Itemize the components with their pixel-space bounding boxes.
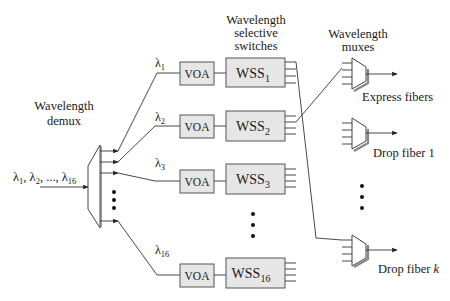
mux-express bbox=[342, 58, 397, 91]
svg-text:demux: demux bbox=[47, 114, 82, 128]
channel-1: VOA WSS1 bbox=[180, 58, 296, 87]
channel-2: VOA WSS2 bbox=[180, 111, 296, 141]
fiber-wss2-to-express bbox=[296, 68, 342, 122]
express-fibers-label: Express fibers bbox=[362, 90, 433, 104]
channel-3: VOA WSS3 bbox=[180, 164, 296, 194]
lambda-16-label: λ16 bbox=[155, 243, 169, 259]
wss-ellipsis bbox=[251, 212, 255, 238]
mux-ellipsis bbox=[360, 184, 364, 210]
demux-heading: Wavelength demux bbox=[34, 99, 94, 128]
drop-fiber-1-label: Drop fiber 1 bbox=[373, 146, 435, 160]
demux-ellipsis bbox=[112, 190, 116, 210]
lambda-2-label: λ2 bbox=[155, 110, 165, 126]
lambda-3-label: λ3 bbox=[155, 156, 165, 172]
svg-text:Wavelength: Wavelength bbox=[328, 27, 388, 41]
svg-text:VOA: VOA bbox=[185, 270, 211, 282]
muxes-heading: Wavelength muxes bbox=[328, 27, 388, 54]
fiber-wss1-to-drop-k bbox=[296, 62, 342, 240]
svg-text:Wavelength: Wavelength bbox=[34, 99, 94, 113]
roadm-diagram: Wavelength demux Wavelength selective sw… bbox=[0, 0, 450, 301]
drop-fiber-k-label: Drop fiber k bbox=[378, 262, 440, 276]
wss-heading: Wavelength selective switches bbox=[226, 13, 286, 53]
fiber-lambda-1 bbox=[118, 73, 180, 151]
diagram-svg: Wavelength demux Wavelength selective sw… bbox=[0, 0, 450, 301]
svg-text:switches: switches bbox=[234, 39, 277, 53]
svg-text:selective: selective bbox=[234, 26, 278, 40]
channel-16: VOA WSS16 bbox=[180, 258, 296, 288]
input-wavelengths-label: λ1, λ2, ..., λ16 bbox=[13, 170, 76, 186]
lambda-1-label: λ1 bbox=[155, 56, 165, 72]
svg-text:Wavelength: Wavelength bbox=[226, 13, 286, 27]
fiber-lambda-16 bbox=[118, 221, 180, 275]
svg-text:VOA: VOA bbox=[185, 176, 211, 188]
svg-text:VOA: VOA bbox=[185, 68, 211, 80]
svg-text:λ1, λ2, ..., λ16: λ1, λ2, ..., λ16 bbox=[13, 170, 76, 186]
fiber-lambda-3 bbox=[118, 173, 180, 181]
svg-text:muxes: muxes bbox=[342, 40, 375, 54]
wavelength-demux bbox=[88, 145, 118, 228]
svg-text:VOA: VOA bbox=[185, 121, 211, 133]
